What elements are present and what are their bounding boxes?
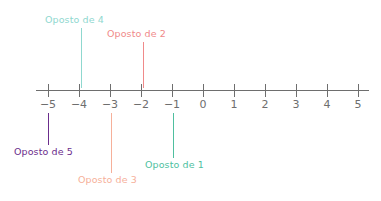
- tick-label-0: 0: [193, 98, 213, 111]
- tick-label--1: −1: [162, 98, 182, 111]
- tick-mark: [296, 84, 297, 97]
- tick-label-1: 1: [224, 98, 244, 111]
- tick-mark: [79, 84, 80, 97]
- tick-label-2: 2: [255, 98, 275, 111]
- annotation-label-oposto-de-2: Oposto de 2: [107, 28, 166, 39]
- annotation-label-oposto-de-4: Oposto de 4: [45, 14, 104, 25]
- tick-mark: [141, 84, 142, 97]
- tick-mark: [172, 84, 173, 97]
- tick-label--4: −4: [69, 98, 89, 111]
- tick-mark: [48, 84, 49, 97]
- connector-oposto-de-4: [81, 28, 82, 88]
- tick-mark: [234, 84, 235, 97]
- annotation-label-oposto-de-3: Oposto de 3: [78, 174, 137, 185]
- tick-label-3: 3: [286, 98, 306, 111]
- connector-oposto-de-3: [111, 113, 112, 173]
- tick-label-4: 4: [317, 98, 337, 111]
- number-line-figure: Oposto de 4 Oposto de 2 −5 −4 −3 −2 −1 0…: [0, 0, 381, 201]
- tick-mark: [358, 84, 359, 97]
- tick-mark: [203, 84, 204, 97]
- annotation-label-oposto-de-5: Oposto de 5: [14, 146, 73, 157]
- tick-label--5: −5: [38, 98, 58, 111]
- tick-label-5: 5: [348, 98, 368, 111]
- tick-mark: [110, 84, 111, 97]
- tick-mark: [265, 84, 266, 97]
- connector-oposto-de-1: [173, 113, 174, 158]
- tick-label--3: −3: [100, 98, 120, 111]
- connector-oposto-de-5: [48, 113, 49, 145]
- annotation-label-oposto-de-1: Oposto de 1: [145, 159, 204, 170]
- tick-label--2: −2: [131, 98, 151, 111]
- tick-mark: [327, 84, 328, 97]
- connector-oposto-de-2: [143, 42, 144, 88]
